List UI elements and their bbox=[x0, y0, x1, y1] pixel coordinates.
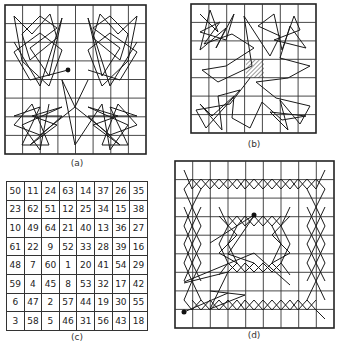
hatched-center bbox=[246, 60, 264, 78]
grid-cell: 21 bbox=[59, 219, 77, 238]
grid-cell: 3 bbox=[7, 312, 25, 331]
panel-d: (d) bbox=[170, 155, 340, 348]
caption-b: (b) bbox=[239, 139, 269, 149]
grid-cell: 27 bbox=[130, 219, 148, 238]
end-dot bbox=[182, 310, 187, 315]
grid-cell: 29 bbox=[130, 256, 148, 275]
grid-cell: 49 bbox=[24, 219, 42, 238]
grid-cell: 11 bbox=[24, 182, 42, 201]
grid-cell: 31 bbox=[77, 312, 95, 331]
start-dot bbox=[66, 68, 71, 73]
grid-cell: 25 bbox=[77, 200, 95, 219]
start-dot bbox=[252, 213, 257, 218]
caption-c: (c) bbox=[62, 332, 92, 342]
grid-cell: 61 bbox=[7, 237, 25, 256]
grid-cell: 28 bbox=[94, 237, 112, 256]
grid-cell: 62 bbox=[24, 200, 42, 219]
grid-cell: 51 bbox=[42, 200, 60, 219]
caption-d: (d) bbox=[239, 330, 269, 340]
grid-cell: 19 bbox=[94, 293, 112, 312]
grid-cell: 18 bbox=[130, 312, 148, 331]
caption-a: (a) bbox=[62, 158, 92, 168]
grid-cell: 9 bbox=[42, 237, 60, 256]
grid-cell: 55 bbox=[130, 293, 148, 312]
grid-cell: 26 bbox=[112, 182, 130, 201]
grid-row: 59 4 45 8 53 32 17 42 bbox=[7, 274, 148, 293]
knight-tour-diagram-d bbox=[170, 155, 340, 348]
grid-cell: 48 bbox=[7, 256, 25, 275]
grid-cell: 57 bbox=[59, 293, 77, 312]
numbered-grid-c: 50 11 24 63 14 37 26 35 23 62 51 12 25 3… bbox=[6, 181, 148, 331]
grid-row: 61 22 9 52 33 28 39 16 bbox=[7, 237, 148, 256]
grid-cell: 44 bbox=[77, 293, 95, 312]
grid-row: 48 7 60 1 20 41 54 29 bbox=[7, 256, 148, 275]
grid-cell: 53 bbox=[77, 274, 95, 293]
grid-cell: 15 bbox=[112, 200, 130, 219]
grid-cell: 56 bbox=[94, 312, 112, 331]
grid-cell: 40 bbox=[77, 219, 95, 238]
grid-row: 3 58 5 46 31 56 43 18 bbox=[7, 312, 148, 331]
grid-cell: 32 bbox=[94, 274, 112, 293]
grid-cell: 33 bbox=[77, 237, 95, 256]
grid-cell: 46 bbox=[59, 312, 77, 331]
grid-row: 50 11 24 63 14 37 26 35 bbox=[7, 182, 148, 201]
knight-tour-diagram-b bbox=[170, 0, 340, 155]
grid-cell: 36 bbox=[112, 219, 130, 238]
grid-row: 23 62 51 12 25 34 15 38 bbox=[7, 200, 148, 219]
grid-cell: 47 bbox=[24, 293, 42, 312]
grid-cell: 34 bbox=[94, 200, 112, 219]
grid-cell: 63 bbox=[59, 182, 77, 201]
grid-cell: 4 bbox=[24, 274, 42, 293]
grid-cell: 58 bbox=[24, 312, 42, 331]
grid-cell: 50 bbox=[7, 182, 25, 201]
grid-cell: 2 bbox=[42, 293, 60, 312]
grid-cell: 52 bbox=[59, 237, 77, 256]
grid-cell: 20 bbox=[77, 256, 95, 275]
grid-cell: 59 bbox=[7, 274, 25, 293]
grid-cell: 37 bbox=[94, 182, 112, 201]
grid-cell: 16 bbox=[130, 237, 148, 256]
grid-cell: 43 bbox=[112, 312, 130, 331]
grid-cell: 12 bbox=[59, 200, 77, 219]
grid-cell: 45 bbox=[42, 274, 60, 293]
grid-cell: 23 bbox=[7, 200, 25, 219]
grid-cell: 13 bbox=[94, 219, 112, 238]
grid-cell: 5 bbox=[42, 312, 60, 331]
grid-cell: 24 bbox=[42, 182, 60, 201]
panel-a: (a) bbox=[0, 0, 170, 172]
grid-cell: 64 bbox=[42, 219, 60, 238]
grid-cell: 14 bbox=[77, 182, 95, 201]
grid-cell: 60 bbox=[42, 256, 60, 275]
grid-cell: 7 bbox=[24, 256, 42, 275]
grid-cell: 1 bbox=[59, 256, 77, 275]
panel-b: (b) bbox=[170, 0, 340, 155]
grid-cell: 22 bbox=[24, 237, 42, 256]
grid-cell: 30 bbox=[112, 293, 130, 312]
grid-row: 6 47 2 57 44 19 30 55 bbox=[7, 293, 148, 312]
grid-cell: 35 bbox=[130, 182, 148, 201]
grid-cell: 6 bbox=[7, 293, 25, 312]
panel-c: 50 11 24 63 14 37 26 35 23 62 51 12 25 3… bbox=[0, 174, 170, 348]
grid-cell: 42 bbox=[130, 274, 148, 293]
grid-cell: 38 bbox=[130, 200, 148, 219]
grid-cell: 17 bbox=[112, 274, 130, 293]
grid-cell: 39 bbox=[112, 237, 130, 256]
grid-cell: 54 bbox=[112, 256, 130, 275]
grid-cell: 8 bbox=[59, 274, 77, 293]
grid-row: 10 49 64 21 40 13 36 27 bbox=[7, 219, 148, 238]
knight-tour-diagram-a bbox=[0, 0, 170, 172]
grid-cell: 41 bbox=[94, 256, 112, 275]
grid-cell: 10 bbox=[7, 219, 25, 238]
